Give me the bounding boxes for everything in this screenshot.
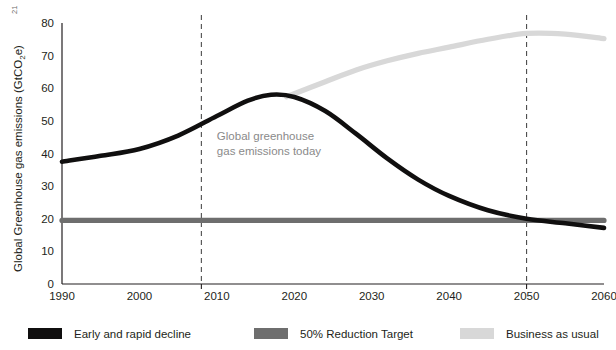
chart-svg: Global Greenhouse gas emissions (GtCO2e)… — [0, 0, 616, 350]
y-tick-label: 40 — [41, 148, 54, 160]
x-tick-label: 2060 — [591, 290, 616, 302]
y-axis-title-main: Global Greenhouse gas emissions (GtCO — [12, 60, 24, 272]
x-tick-label: 2030 — [359, 290, 385, 302]
legend: Early and rapid decline50% Reduction Tar… — [28, 328, 599, 340]
y-tick-label: 70 — [41, 50, 54, 62]
legend-swatch — [28, 328, 62, 339]
y-axis-title-group: Global Greenhouse gas emissions (GtCO2e)… — [10, 6, 27, 272]
y-tick-label: 10 — [41, 245, 54, 257]
annotation-group: Global greenhousegas emissions today — [217, 130, 321, 157]
series-line-business-as-usual — [287, 33, 604, 97]
chart-figure: Global Greenhouse gas emissions (GtCO2e)… — [0, 0, 616, 350]
x-tick-mark-group — [201, 284, 526, 289]
legend-swatch — [254, 328, 288, 339]
legend-swatch — [460, 328, 494, 339]
legend-label: Early and rapid decline — [74, 328, 191, 340]
y-tick-label-group: 01020304050607080 — [41, 17, 54, 290]
y-tick-label: 50 — [41, 115, 54, 127]
y-tick-label: 60 — [41, 82, 54, 94]
today-annotation: Global greenhousegas emissions today — [217, 130, 321, 157]
x-tick-label-group: 19902000201020202030204020502060 — [49, 290, 616, 302]
y-tick-label: 20 — [41, 213, 54, 225]
x-tick-label: 1990 — [49, 290, 75, 302]
x-tick-label: 2040 — [436, 290, 462, 302]
series-line-early-and-rapid-decline — [62, 94, 604, 227]
y-tick-label: 30 — [41, 180, 54, 192]
y-axis-title: Global Greenhouse gas emissions (GtCO2e) — [12, 45, 27, 272]
x-tick-label: 2000 — [127, 290, 153, 302]
y-tick-label: 0 — [48, 278, 54, 290]
y-axis-title-footnote: 21 — [10, 6, 19, 14]
y-axis-title-tail: e) — [12, 45, 24, 55]
x-tick-label: 2050 — [514, 290, 540, 302]
x-tick-label: 2020 — [281, 290, 307, 302]
legend-label: Business as usual — [506, 328, 599, 340]
x-tick-label: 2010 — [204, 290, 230, 302]
y-tick-label: 80 — [41, 17, 54, 29]
series-path-group — [62, 33, 604, 228]
legend-label: 50% Reduction Target — [300, 328, 414, 340]
